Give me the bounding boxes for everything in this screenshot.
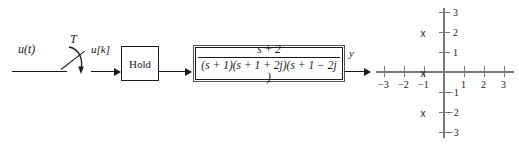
yticklabel--3: −3 [448, 127, 459, 138]
hold-output-line [159, 71, 186, 72]
yticklabel-2: 2 [453, 27, 458, 38]
hold-block: Hold [121, 46, 159, 81]
sampled-signal-line [91, 71, 116, 72]
ytick-3 [439, 12, 450, 13]
transfer-function-denominator: (s + 1)(s + 1 + 2j)(s + 1 − 2j ) [196, 58, 342, 85]
yticklabel--2: −2 [448, 107, 459, 118]
yticklabel--1: −1 [448, 87, 459, 98]
pole-marker-upper: x [421, 28, 426, 39]
xticklabel--2: −2 [398, 79, 409, 90]
transfer-function-expression: s + 2 (s + 1)(s + 1 + 2j)(s + 1 − 2j ) [196, 43, 342, 85]
imaginary-axis [443, 8, 444, 138]
ytick-1 [439, 52, 450, 53]
xtick-3 [504, 66, 505, 77]
sampling-period-label: T [70, 33, 77, 45]
hold-block-label: Hold [129, 58, 151, 70]
output-signal-label: y [349, 48, 354, 59]
figure-root: u(t) T u[k] Hold s + 2 (s + 1)(s + 1 + 2… [0, 0, 519, 155]
output-signal-arrowhead [364, 68, 371, 76]
xtick-2 [484, 66, 485, 77]
xticklabel-3: 3 [501, 79, 506, 90]
xticklabel--3: −3 [378, 79, 389, 90]
pole-marker-lower: x [421, 108, 426, 119]
input-signal-line [12, 71, 67, 72]
sampled-signal-arrowhead [114, 68, 121, 76]
xticklabel-2: 2 [481, 79, 486, 90]
transfer-function-numerator: s + 2 [196, 43, 342, 57]
ytick-2 [439, 32, 450, 33]
pole-zero-plot: −3 −2 −1 1 2 3 3 2 1 −1 −2 −3 x x x [376, 6, 516, 149]
xtick--2 [404, 66, 405, 77]
real-axis [376, 71, 514, 72]
yticklabel-3: 3 [453, 7, 458, 18]
transfer-function-block: s + 2 (s + 1)(s + 1 + 2j)(s + 1 − 2j ) [195, 47, 343, 80]
xtick-1 [464, 66, 465, 77]
yticklabel-1: 1 [453, 47, 458, 58]
input-signal-label: u(t) [18, 43, 35, 55]
hold-output-arrowhead [185, 68, 192, 76]
xticklabel--1: −1 [418, 79, 429, 90]
pole-marker-real: x [421, 68, 426, 79]
sampled-signal-label: u[k] [91, 44, 110, 55]
xtick--3 [384, 66, 385, 77]
output-signal-line [345, 71, 366, 72]
xticklabel-1: 1 [461, 79, 466, 90]
